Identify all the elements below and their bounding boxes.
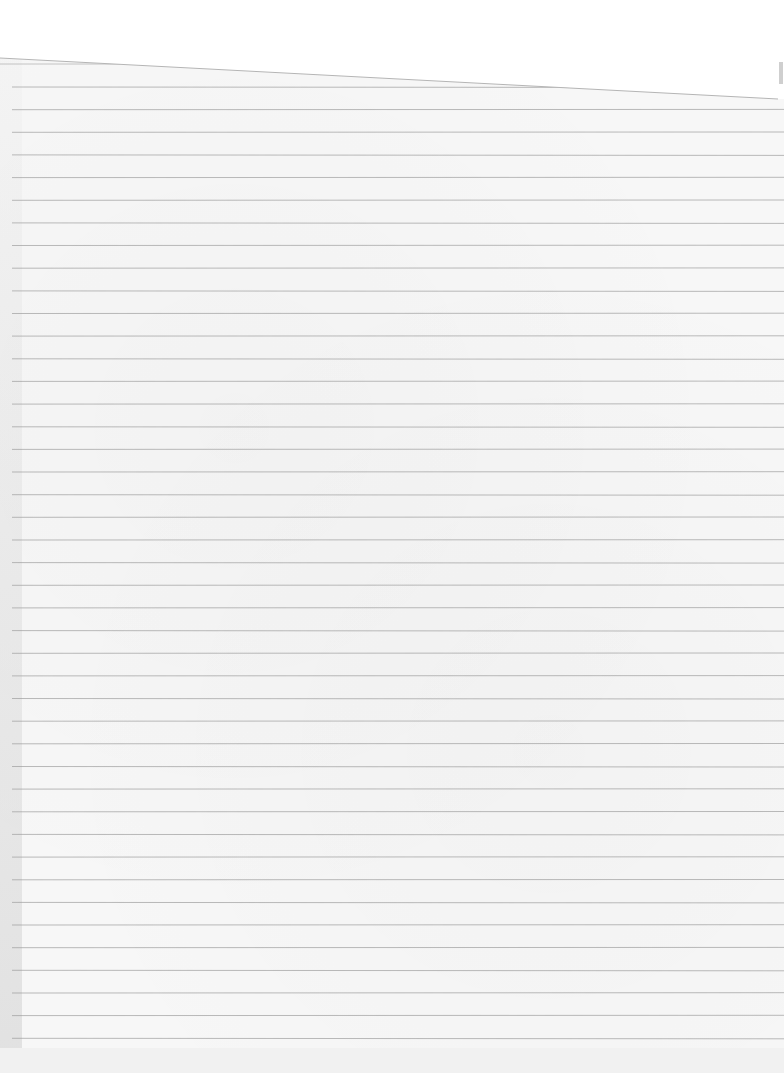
ruled-lines-layer [0,0,784,1073]
rule-line [12,699,784,700]
rule-line [12,767,784,768]
rule-line [12,495,784,496]
rule-line [12,1038,784,1039]
rule-line [12,223,784,224]
rule-line [12,359,784,360]
rule-line [12,834,784,835]
rule-line [12,563,784,564]
ruled-lines [0,64,784,1039]
top-paper-flap [0,0,784,99]
rule-line [12,155,784,156]
rule-line [12,291,784,292]
rule-line [12,631,784,632]
edge-mark [779,62,783,84]
rule-line [12,902,784,903]
rule-line [12,427,784,428]
rule-line [12,970,784,971]
